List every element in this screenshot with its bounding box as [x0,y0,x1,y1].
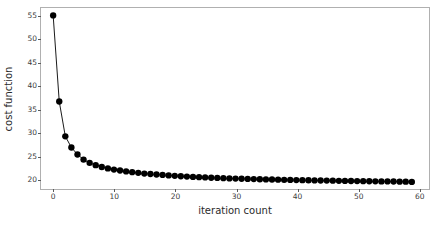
y-axis-tick-mark [38,16,41,17]
y-axis-tick-label: 40 [27,82,37,90]
data-point-marker [129,169,135,175]
plot-axes-area: 20253035404550550102030405060 [40,7,430,190]
data-point-marker [409,179,415,185]
y-axis-tick-mark [38,39,41,40]
data-point-marker [190,174,196,180]
x-axis-tick-label: 20 [171,193,181,201]
data-point-marker [275,177,281,183]
data-point-marker [245,176,251,182]
y-axis-label-text: cost function [4,66,14,131]
data-point-marker [403,179,409,185]
data-point-marker [220,175,226,181]
figure-canvas: cost function 20253035404550550102030405… [0,0,442,231]
data-point-marker [317,177,323,183]
data-point-marker [366,178,372,184]
y-axis-tick-label: 20 [27,176,37,184]
data-point-marker [281,177,287,183]
data-point-marker [390,178,396,184]
data-point-marker [299,177,305,183]
data-point-marker [384,178,390,184]
data-point-marker [238,176,244,182]
y-axis-tick-mark [38,133,41,134]
data-point-marker [293,177,299,183]
data-point-marker [141,170,147,176]
data-point-marker [99,164,105,170]
x-axis-label-text: iteration count [198,205,272,216]
data-point-marker [311,177,317,183]
data-point-marker [342,178,348,184]
data-point-marker [93,162,99,168]
data-point-marker [348,178,354,184]
data-point-marker [178,173,184,179]
data-point-marker [56,98,62,104]
data-point-marker [159,172,165,178]
x-axis-tick-label: 50 [354,193,364,201]
cost-function-markers [50,12,415,185]
data-point-marker [172,173,178,179]
data-point-marker [86,160,92,166]
data-point-marker [263,176,269,182]
y-axis-tick-label: 45 [27,59,37,67]
data-point-marker [330,178,336,184]
data-point-marker [153,171,159,177]
y-axis-tick-label: 25 [27,153,37,161]
data-point-marker [50,12,56,18]
data-point-marker [68,144,74,150]
data-point-marker [360,178,366,184]
data-point-marker [214,175,220,181]
x-axis-tick-label: 40 [293,193,303,201]
y-axis-tick-label: 50 [27,35,37,43]
y-axis-tick-mark [38,157,41,158]
data-point-marker [62,133,68,139]
data-point-marker [396,178,402,184]
data-point-marker [251,176,257,182]
cost-function-line [53,15,412,181]
y-axis-tick-mark [38,180,41,181]
data-point-marker [105,165,111,171]
y-axis-tick-label: 30 [27,129,37,137]
data-point-marker [196,174,202,180]
data-point-marker [208,175,214,181]
x-axis-tick-label: 10 [110,193,120,201]
data-point-marker [135,170,141,176]
line-chart-svg [41,8,429,189]
data-point-marker [111,166,117,172]
data-point-marker [324,177,330,183]
data-point-marker [232,175,238,181]
data-point-marker [202,174,208,180]
x-axis-tick-label: 30 [232,193,242,201]
data-point-marker [165,172,171,178]
y-axis-tick-mark [38,63,41,64]
data-point-marker [226,175,232,181]
data-point-marker [269,176,275,182]
data-point-marker [257,176,263,182]
x-axis-tick-label: 60 [415,193,425,201]
data-point-marker [147,171,153,177]
data-point-marker [123,168,129,174]
y-axis-tick-label: 55 [27,12,37,20]
y-axis-label: cost function [2,7,16,190]
data-point-marker [305,177,311,183]
data-point-marker [117,167,123,173]
x-axis-label: iteration count [40,206,430,216]
data-point-marker [74,151,80,157]
data-point-marker [378,178,384,184]
data-point-marker [80,156,86,162]
data-point-marker [184,173,190,179]
data-point-marker [372,178,378,184]
y-axis-tick-mark [38,86,41,87]
data-point-marker [287,177,293,183]
y-axis-tick-label: 35 [27,106,37,114]
data-point-marker [336,178,342,184]
y-axis-tick-mark [38,110,41,111]
data-point-marker [354,178,360,184]
x-axis-tick-label: 0 [51,193,56,201]
